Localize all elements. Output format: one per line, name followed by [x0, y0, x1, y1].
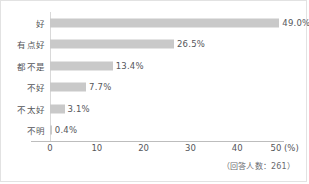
x-axis-line	[31, 141, 284, 142]
category-label: 不好	[27, 81, 45, 93]
x-axis-tick-label: 10	[91, 143, 102, 153]
value-label: 13.4%	[116, 61, 144, 71]
bar[interactable]	[50, 18, 279, 27]
value-label: 26.5%	[177, 39, 205, 49]
x-axis-tick-label: 0	[47, 143, 52, 153]
bar[interactable]	[50, 61, 113, 70]
chart-figure: 好 49.0% 有点好 26.5% 都不是 13.4% 不好 7.7% 不太好 …	[0, 0, 307, 182]
bar-row: 好 49.0%	[50, 12, 284, 34]
value-label: 3.1%	[68, 104, 90, 114]
bar[interactable]	[50, 40, 174, 49]
x-axis-tick-label: 30	[185, 143, 196, 153]
plot-area: 好 49.0% 有点好 26.5% 都不是 13.4% 不好 7.7% 不太好 …	[50, 12, 284, 141]
bar[interactable]	[50, 104, 65, 113]
x-axis-unit-label: (%)	[284, 143, 299, 153]
bar-row: 不好 7.7%	[50, 77, 284, 99]
bar-row: 不明 0.4%	[50, 120, 284, 142]
value-label: 0.4%	[55, 125, 77, 135]
respondent-count-note: （回答人数：261）	[222, 160, 295, 171]
bar-row: 有点好 26.5%	[50, 34, 284, 56]
value-label: 49.0%	[282, 18, 309, 28]
bar-row: 不太好 3.1%	[50, 98, 284, 120]
x-axis-tick-label: 20	[138, 143, 149, 153]
bar[interactable]	[50, 83, 86, 92]
x-axis-tick-label: 40	[232, 143, 243, 153]
category-label: 好	[36, 17, 45, 29]
bar[interactable]	[50, 126, 52, 135]
x-axis-tick-label: 50	[271, 143, 282, 153]
category-label: 不明	[27, 124, 45, 136]
value-label: 7.7%	[89, 82, 111, 92]
category-label: 都不是	[17, 60, 45, 72]
category-label: 有点好	[17, 38, 45, 50]
category-label: 不太好	[17, 103, 45, 115]
bar-row: 都不是 13.4%	[50, 55, 284, 77]
